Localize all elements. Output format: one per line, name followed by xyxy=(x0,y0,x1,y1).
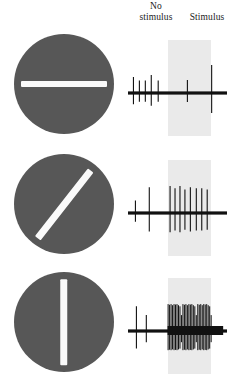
spike-trace-svg xyxy=(126,32,230,144)
spike-recording-oblique xyxy=(126,152,230,264)
spike-trace-svg xyxy=(126,270,230,382)
stimulus-label: Stimulus xyxy=(184,12,230,23)
panel-header: No stimulus Stimulus xyxy=(128,0,230,26)
spike-trace-svg xyxy=(126,152,230,264)
orientation-bar xyxy=(21,81,107,88)
no-stimulus-label-line2: stimulus xyxy=(128,12,184,23)
orientation-bar xyxy=(61,279,68,365)
no-stimulus-label: No stimulus xyxy=(128,1,184,23)
stimulus-disc-vertical xyxy=(14,272,114,372)
trial-row xyxy=(0,32,230,148)
trial-row xyxy=(0,270,230,386)
trial-row xyxy=(0,152,230,268)
spike-recording-vertical xyxy=(126,270,230,382)
stimulus-disc-oblique xyxy=(14,154,114,254)
no-stimulus-label-line1: No xyxy=(128,1,184,12)
spike-recording-horizontal xyxy=(126,32,230,144)
stimulus-disc-horizontal xyxy=(14,34,114,134)
